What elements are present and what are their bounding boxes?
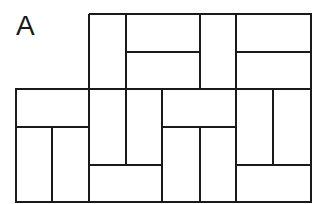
- rectangle-tiling-diagram: [0, 0, 313, 204]
- tiling-outline: [16, 14, 311, 202]
